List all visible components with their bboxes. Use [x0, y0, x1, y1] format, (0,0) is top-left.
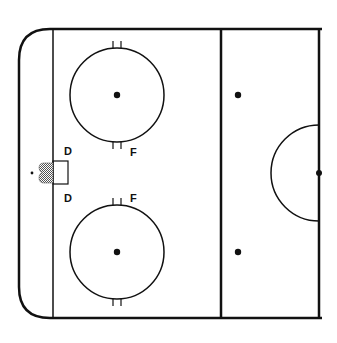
goal-crease-box	[53, 161, 68, 184]
faceoff-circle-top	[70, 41, 164, 149]
neutral-dot-bottom	[235, 249, 241, 255]
boards-outline	[19, 29, 322, 318]
hockey-rink-diagram: D D F F	[0, 0, 337, 343]
center-circle-half	[271, 125, 319, 221]
label-d-top: D	[64, 145, 72, 157]
center-dot	[316, 170, 322, 176]
label-d-bottom: D	[64, 192, 72, 204]
neutral-dot-top	[235, 92, 241, 98]
label-f-bottom: F	[130, 192, 137, 204]
faceoff-circle-bottom	[70, 198, 164, 306]
label-f-top: F	[130, 146, 137, 158]
faceoff-dot-top	[114, 92, 120, 98]
player-dot	[31, 172, 34, 175]
goal-net-icon	[39, 163, 53, 183]
faceoff-dot-bottom	[114, 249, 120, 255]
